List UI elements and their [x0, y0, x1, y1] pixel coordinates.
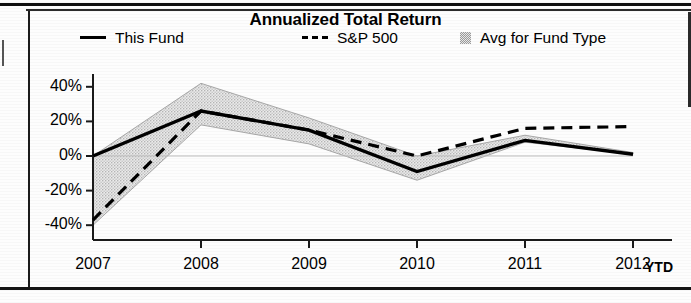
- sp500-line: [93, 111, 633, 220]
- shaded-area-swatch-icon: [460, 32, 471, 44]
- page-rule-left-stub: [2, 40, 4, 66]
- legend-item-this-fund: This Fund: [80, 30, 184, 46]
- y-tick-label: 40%: [20, 77, 82, 95]
- y-tick-label: 20%: [20, 111, 82, 129]
- chart-legend: This Fund S&P 500 Avg for Fund Type: [80, 30, 680, 54]
- this-fund-line: [93, 111, 633, 172]
- chart-title: Annualized Total Return: [0, 10, 691, 30]
- legend-item-sp500: S&P 500: [302, 30, 398, 46]
- x-axis-ytd-label: YTD: [645, 259, 673, 275]
- page-rule-top: [0, 3, 691, 6]
- x-tick-label: 2007: [53, 255, 133, 273]
- x-tick-label: 2010: [377, 255, 457, 273]
- dashed-line-swatch-icon: [302, 36, 328, 39]
- x-tick-label: 2008: [161, 255, 241, 273]
- legend-item-avg-fund-type: Avg for Fund Type: [460, 30, 606, 46]
- solid-line-swatch-icon: [80, 36, 106, 39]
- page-rule-bottom: [0, 287, 691, 290]
- y-tick-label: 0%: [20, 146, 82, 164]
- x-tick-label: 2011: [485, 255, 565, 273]
- chart-axes: [86, 74, 672, 248]
- legend-label-this-fund: This Fund: [115, 30, 184, 46]
- y-tick-label: -40%: [20, 215, 82, 233]
- avg-fund-type-band: [93, 83, 633, 225]
- legend-label-avg-fund-type: Avg for Fund Type: [480, 30, 606, 46]
- x-tick-label: 2009: [269, 255, 349, 273]
- scanned-page: Annualized Total Return This Fund S&P 50…: [0, 0, 691, 303]
- legend-label-sp500: S&P 500: [337, 30, 398, 46]
- y-tick-label: -20%: [20, 181, 82, 199]
